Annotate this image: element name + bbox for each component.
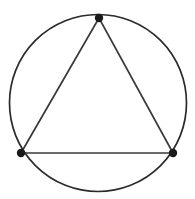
diagram-canvas: [0, 0, 195, 199]
inscribed-triangle-figure: [0, 0, 195, 199]
vertex-top-dot: [95, 14, 103, 22]
vertex-bottom-left-dot: [17, 149, 25, 157]
vertex-bottom-right-dot: [169, 149, 177, 157]
diagram-background: [0, 0, 195, 199]
